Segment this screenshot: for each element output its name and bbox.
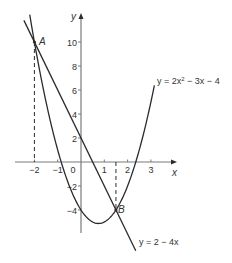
graph-figure: −2−10123 108642−2−4 x y A B y = 2x2 − 3x… xyxy=(0,0,232,263)
point-a-marker xyxy=(33,40,36,43)
y-tick-label: 4 xyxy=(72,110,77,120)
y-ticks: 108642−2−4 xyxy=(67,38,81,216)
x-tick-label: −1 xyxy=(53,165,63,175)
x-tick-label: −2 xyxy=(29,165,39,175)
x-tick-label: 2 xyxy=(125,165,130,175)
y-axis-arrow-icon xyxy=(79,13,84,19)
y-axis-label: y xyxy=(70,11,77,22)
points: A B xyxy=(33,36,125,215)
point-b-label: B xyxy=(118,204,125,215)
straight-line xyxy=(24,20,136,250)
y-tick-label: −4 xyxy=(67,206,77,216)
x-axis-label: x xyxy=(171,167,178,178)
y-tick-label: 8 xyxy=(72,62,77,72)
x-tick-label: 0 xyxy=(70,165,75,175)
parabola-curve xyxy=(30,15,155,224)
x-tick-label: 1 xyxy=(102,165,107,175)
y-tick-label: 10 xyxy=(67,38,77,48)
y-tick-label: 2 xyxy=(72,134,77,144)
x-tick-label: 3 xyxy=(148,165,153,175)
y-tick-label: 6 xyxy=(72,86,77,96)
parabola-equation-label: y = 2x2 − 3x − 4 xyxy=(157,76,220,86)
point-a-label: A xyxy=(38,36,46,47)
line-equation-label: y = 2 − 4x xyxy=(139,237,179,247)
curves xyxy=(24,15,154,251)
x-axis-arrow-icon xyxy=(171,160,177,165)
